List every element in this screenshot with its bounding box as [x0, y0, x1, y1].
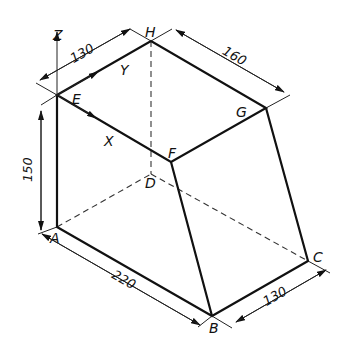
- dimension-top-160: 160: [151, 29, 290, 108]
- dimension-text-150: 150: [20, 157, 35, 182]
- vertex-label-G: G: [236, 104, 247, 120]
- visible-edges: [57, 41, 308, 316]
- hidden-edge-AD: [57, 174, 151, 227]
- dimension-text-130-bottom: 130: [260, 283, 289, 308]
- dimension-text-160: 160: [220, 43, 249, 68]
- y-axis-label: Y: [120, 62, 130, 78]
- dimension-height-150: 150: [20, 95, 57, 234]
- x-axis-label: X: [103, 133, 114, 149]
- edge-GC: [266, 108, 308, 261]
- vertex-label-F: F: [168, 145, 177, 161]
- extension-line: [266, 95, 290, 108]
- vertex-label-B: B: [209, 320, 219, 336]
- vertex-label-H: H: [145, 24, 156, 40]
- edge-FB: [171, 162, 212, 316]
- extension-line: [41, 95, 57, 105]
- isometric-drawing: Z Y X H E G F D A B C 130 160 150: [0, 0, 348, 353]
- vertex-label-C: C: [313, 249, 323, 265]
- extension-line: [36, 83, 57, 95]
- dimension-bottom-130: 130: [212, 261, 330, 328]
- vertex-label-E: E: [72, 91, 81, 107]
- vertex-label-D: D: [145, 175, 156, 191]
- z-axis-label: Z: [52, 27, 63, 43]
- dimension-bottom-220: 220: [42, 234, 212, 327]
- edge-AB: [57, 227, 212, 316]
- dimension-text-130-top: 130: [68, 41, 97, 66]
- hidden-edge-DC: [151, 174, 308, 261]
